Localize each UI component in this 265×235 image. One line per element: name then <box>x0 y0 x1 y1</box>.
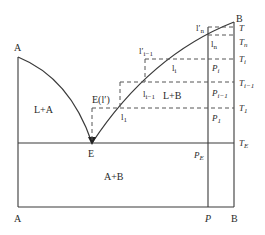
label-lprime-i-1: l′i−1 <box>139 46 153 58</box>
label-pi-1: Pi−1 <box>211 88 228 100</box>
label-ti: Ti <box>239 54 246 66</box>
label-ln: ln <box>211 39 218 51</box>
label-l1: l1 <box>121 112 128 124</box>
label-p1: P1 <box>211 113 221 125</box>
label-pi: Pi <box>211 63 220 75</box>
liquidus-a-curve <box>18 57 92 143</box>
region-l-plus-b: L+B <box>163 90 182 101</box>
label-b-bottom: B <box>231 213 238 224</box>
label-t: T <box>239 23 245 33</box>
label-e: E <box>88 148 94 159</box>
label-lprime-n: l′n <box>196 23 204 35</box>
label-a-bottom: A <box>14 213 22 224</box>
label-e-lprime: E(l′) <box>92 94 110 106</box>
label-te: TE <box>239 138 249 150</box>
region-l-plus-a: L+A <box>34 104 54 115</box>
label-li-1: li−1 <box>143 89 155 101</box>
label-li: li <box>172 63 177 75</box>
label-a-top: A <box>14 42 22 53</box>
label-ti-1: Ti−1 <box>239 78 254 90</box>
label-t1: T1 <box>239 103 248 115</box>
label-pe: PE <box>193 150 205 162</box>
label-tn: Tn <box>239 37 248 49</box>
region-a-plus-b: A+B <box>104 171 124 182</box>
phase-diagram: A B A P B L+A L+B A+B E E(l′) l1 li−1 li… <box>0 0 265 235</box>
label-p-bottom: P <box>204 213 211 224</box>
